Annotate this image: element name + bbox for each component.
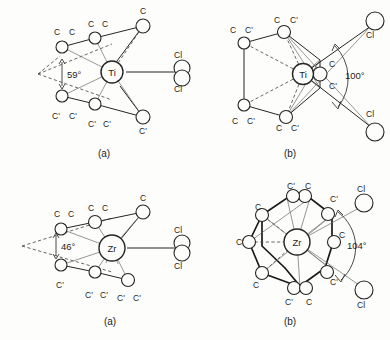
chloride-atom bbox=[355, 281, 373, 299]
chloride-label: Cl bbox=[174, 225, 182, 235]
carbon-atom bbox=[89, 266, 101, 278]
panel-caption-ti-b: (b) bbox=[284, 148, 296, 159]
chloride-label: Cl bbox=[174, 50, 182, 60]
panel-ti-a: 59° bbox=[38, 6, 190, 159]
panel-caption-ti-a: (a) bbox=[98, 148, 110, 159]
panel-caption-zr-b: (b) bbox=[284, 316, 296, 327]
panel-zr-b: 104° Zr C' C C C' C' C C C' C' C Cl Cl (… bbox=[236, 181, 373, 327]
carbon-prime-label: C' bbox=[330, 277, 338, 287]
carbon-label: C bbox=[68, 209, 74, 219]
carbon-label: C bbox=[339, 230, 345, 240]
carbon-atom bbox=[89, 216, 102, 229]
carbon-prime-label: C' bbox=[69, 111, 77, 121]
carbon-label: C bbox=[253, 280, 259, 290]
carbon-label: C bbox=[255, 202, 261, 212]
carbon-prime-label: C' bbox=[236, 237, 244, 247]
carbon-prime-label: C' bbox=[85, 290, 93, 300]
carbon-label: C bbox=[232, 116, 238, 126]
carbon-label: C bbox=[54, 27, 60, 37]
carbon-prime-label: C' bbox=[56, 280, 64, 290]
carbon-prime-label: C' bbox=[330, 194, 338, 204]
carbon-atom bbox=[122, 274, 135, 287]
carbon-prime-label: C' bbox=[329, 81, 337, 91]
chloride-label: Cl bbox=[357, 300, 365, 310]
chloride-atom bbox=[174, 245, 190, 261]
angle-label-ti-b: 100° bbox=[345, 70, 365, 81]
carbon-prime-label: C' bbox=[52, 111, 60, 121]
carbon-atom bbox=[313, 67, 327, 81]
panel-zr-a: 46° Zr C C bbox=[22, 193, 190, 327]
carbon-label: C bbox=[88, 203, 94, 213]
panel-ti-b: 100° Ti C C' C C' C C' C C' C C' Cl Cl (… bbox=[230, 12, 384, 159]
carbon-label: C bbox=[329, 59, 335, 69]
carbon-atom bbox=[238, 37, 250, 49]
carbon-prime-label: C' bbox=[291, 123, 299, 133]
metal-label-ti: Ti bbox=[108, 67, 116, 78]
chloride-label: Cl bbox=[357, 184, 365, 194]
angle-label-zr-b: 104° bbox=[347, 240, 367, 251]
carbon-prime-label: C' bbox=[285, 297, 293, 307]
carbon-prime-label: C' bbox=[100, 290, 108, 300]
carbon-atom bbox=[55, 259, 67, 271]
carbon-atom bbox=[238, 99, 250, 111]
carbon-atom bbox=[256, 267, 269, 280]
chloride-atom bbox=[366, 123, 384, 141]
carbon-prime-label: C' bbox=[245, 25, 253, 35]
angle-indicator-zr-a bbox=[53, 233, 59, 259]
carbon-prime-label: C' bbox=[247, 116, 255, 126]
carbon-atom bbox=[56, 90, 68, 102]
carbon-atom bbox=[278, 26, 291, 39]
carbon-atom bbox=[288, 282, 301, 295]
carbon-prime-label: C' bbox=[88, 119, 96, 129]
carbon-label: C bbox=[88, 19, 94, 29]
carbon-prime-label: C' bbox=[133, 293, 141, 303]
carbon-label: C bbox=[140, 193, 146, 203]
carbon-label: C bbox=[102, 19, 108, 29]
carbon-label: C bbox=[102, 203, 108, 213]
chloride-label: Cl bbox=[366, 109, 374, 119]
carbon-atom bbox=[55, 223, 67, 235]
chloride-label: Cl bbox=[174, 261, 182, 271]
carbon-prime-label: C' bbox=[139, 126, 147, 136]
carbon-label: C bbox=[69, 27, 75, 37]
carbon-atom bbox=[280, 111, 293, 124]
carbon-atom bbox=[136, 110, 150, 124]
carbon-atom bbox=[322, 208, 335, 221]
angle-label-ti-a: 59° bbox=[67, 69, 82, 80]
carbon-prime-label: C' bbox=[103, 119, 111, 129]
carbon-prime-label: C' bbox=[117, 293, 125, 303]
carbon-label: C bbox=[140, 6, 146, 16]
angle-label-zr-a: 46° bbox=[61, 241, 76, 252]
metal-label-zr: Zr bbox=[293, 237, 302, 248]
chloride-atom bbox=[355, 194, 373, 212]
carbon-atom bbox=[299, 190, 312, 203]
molecular-structure-figure: 59° bbox=[0, 0, 390, 340]
carbon-atom bbox=[243, 236, 256, 249]
carbon-atom bbox=[89, 98, 101, 110]
carbon-atom bbox=[136, 19, 150, 33]
carbon-prime-label: C' bbox=[287, 181, 295, 191]
carbon-prime-label: C' bbox=[290, 15, 298, 25]
carbon-label: C bbox=[305, 181, 311, 191]
carbon-label: C bbox=[230, 25, 236, 35]
carbon-atom bbox=[89, 32, 101, 44]
carbon-label: C bbox=[276, 123, 282, 133]
carbon-atom bbox=[300, 282, 313, 295]
metal-label-zr: Zr bbox=[108, 243, 117, 254]
chloride-label: Cl bbox=[366, 30, 374, 40]
carbon-atom bbox=[56, 41, 68, 53]
metal-label-ti: Ti bbox=[299, 69, 307, 80]
chloride-atom bbox=[366, 12, 384, 30]
carbon-atom bbox=[287, 190, 300, 203]
carbon-label: C bbox=[306, 297, 312, 307]
carbon-label: C bbox=[54, 209, 60, 219]
chloride-label: Cl bbox=[174, 84, 182, 94]
carbon-label: C bbox=[274, 15, 280, 25]
panel-caption-zr-a: (a) bbox=[104, 316, 116, 327]
carbon-atom bbox=[136, 205, 150, 219]
